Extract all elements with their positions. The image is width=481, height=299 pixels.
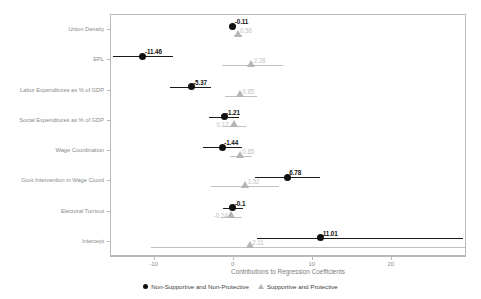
legend-item-non-supportive: Non-Supportive and Non-Protective	[143, 283, 249, 290]
confidence-interval-line	[257, 238, 463, 239]
y-axis-tick-label: Union Density	[69, 26, 104, 32]
data-point-value-label: 2.28	[254, 57, 266, 64]
data-point-triangle	[227, 211, 235, 218]
y-axis-tick-label: EPL	[93, 56, 104, 62]
data-point-value-label: -1.44	[224, 139, 238, 146]
x-axis-tick-label: 10	[308, 261, 315, 267]
data-point-value-label: -1.21	[226, 109, 240, 116]
data-point-value-label: 0.85	[242, 88, 254, 95]
data-point-value-label: 6.78	[289, 169, 301, 176]
x-axis-title: Contributions to Regression Coefficients	[110, 268, 466, 275]
data-point-value-label: -0.24	[214, 212, 228, 219]
y-axis-tick-label: Labor Expenditures as % of GDP	[20, 87, 104, 93]
data-point-value-label: 11.01	[323, 230, 338, 237]
y-axis-tick-label: Social Expenditures as % of GDP	[19, 117, 104, 123]
y-axis-labels: Union DensityEPLLabor Expenditures as % …	[0, 14, 110, 256]
y-axis-tick-label: Wage Coordination	[55, 147, 104, 153]
x-axis-tick-label: 20	[388, 261, 395, 267]
x-axis-tick-mark	[233, 257, 234, 260]
x-axis-tick-label: 0	[231, 261, 234, 267]
chart-legend: Non-Supportive and Non-Protective Suppor…	[0, 283, 481, 290]
x-axis: -1001020	[110, 256, 466, 258]
legend-label: Supportive and Protective	[267, 283, 338, 290]
data-point-value-label: 2.11	[252, 239, 263, 246]
confidence-interval-line	[151, 247, 466, 248]
data-point-value-label: 0.56	[240, 27, 252, 34]
legend-item-supportive: Supportive and Protective	[258, 283, 338, 290]
data-point-value-label: 0.12	[217, 121, 229, 128]
data-point-value-label: 1.52	[248, 178, 260, 185]
y-axis-tick-label: Intercept	[82, 238, 104, 244]
x-axis-tick-label: -10	[149, 261, 158, 267]
x-axis-tick-mark	[312, 257, 313, 260]
circle-marker-icon	[143, 284, 148, 289]
y-axis-tick-label: Electoral Turnout	[61, 208, 104, 214]
coefficient-plot-figure: Union DensityEPLLabor Expenditures as % …	[0, 0, 481, 299]
x-axis-tick-mark	[154, 257, 155, 260]
data-point-value-label: -0.11	[235, 18, 249, 25]
triangle-marker-icon	[258, 284, 264, 289]
data-point-value-label: -0.1	[235, 200, 245, 207]
data-point-value-label: -5.37	[193, 79, 207, 86]
y-axis-tick-label: Govt Intervention in Wage Coord	[21, 177, 104, 183]
plot-panel: -0.11-11.46-5.37-1.21-1.446.78-0.111.010…	[110, 14, 466, 256]
legend-label: Non-Supportive and Non-Protective	[151, 283, 249, 290]
data-point-triangle	[230, 120, 238, 127]
data-point-value-label: -11.46	[145, 48, 162, 55]
x-axis-tick-mark	[391, 257, 392, 260]
data-point-value-label: 0.85	[242, 148, 254, 155]
